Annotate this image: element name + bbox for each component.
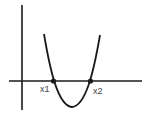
root-point-x2 <box>88 78 93 83</box>
root-label-x2: x2 <box>93 86 103 96</box>
root-point-x1 <box>51 78 56 83</box>
parabola-curve <box>44 34 100 107</box>
root-label-x1: x1 <box>40 84 50 94</box>
parabola-diagram: x1 x2 <box>0 0 150 118</box>
